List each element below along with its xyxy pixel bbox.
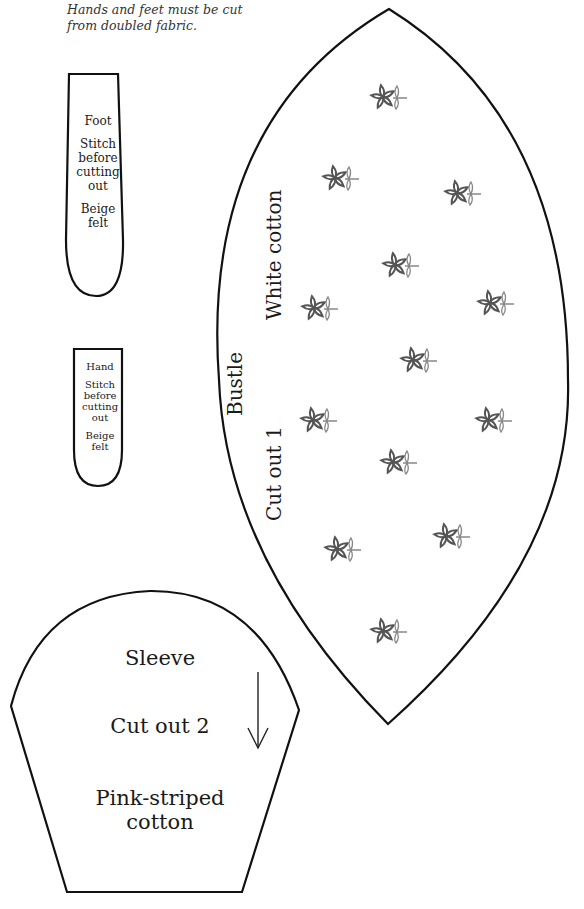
bustle-pattern-outline [217,9,568,724]
flower-icon [383,253,419,277]
bustle-name: Bustle [223,349,247,419]
flower-icon [301,408,337,432]
sleeve-name: Sleeve [60,646,260,670]
flower-icon [325,537,361,561]
foot-name: Foot [68,114,128,128]
flower-icon [445,181,481,205]
hand-instruction-line: Stitch [85,379,115,390]
foot-material-line: felt [88,216,108,230]
sleeve-quantity: Cut out 2 [60,714,260,738]
bustle-quantity: Cut out 1 [262,437,286,521]
foot-material-line: Beige [81,202,116,216]
flower-icon [478,291,514,315]
sleeve-pattern-outline [11,591,299,892]
foot-instruction-line: cutting [76,165,119,179]
foot-instruction: Stitch before cutting out [68,137,128,193]
foot-instruction-line: Stitch [80,137,116,151]
sleeve-material: Pink-striped cotton [60,786,260,834]
hand-label-group: Hand Stitch before cutting out Beige fel… [76,361,124,459]
flower-icon [371,85,407,109]
foot-instruction-line: before [78,151,117,165]
hand-instruction: Stitch before cutting out [76,379,124,423]
sleeve-material-line: cotton [126,810,193,834]
hand-material-line: felt [92,441,109,452]
hand-instruction-line: out [92,412,108,423]
foot-material: Beige felt [68,202,128,230]
foot-label-group: Foot Stitch before cutting out Beige fel… [68,114,128,239]
hand-instruction-line: cutting [82,401,118,412]
flower-icon [302,296,338,320]
flower-icon [476,408,512,432]
hand-material: Beige felt [76,430,124,452]
flower-icon [371,619,407,643]
foot-instruction-line: out [88,179,108,193]
flower-icon [434,524,470,548]
flower-icon [401,348,437,372]
hand-name: Hand [76,361,124,372]
hand-material-line: Beige [86,430,115,441]
flower-icon [323,166,359,190]
bustle-material: White cotton [262,200,286,320]
hand-instruction-line: before [84,390,117,401]
flower-motifs [301,85,514,643]
sleeve-material-line: Pink-striped [95,786,224,810]
flower-icon [381,450,417,474]
